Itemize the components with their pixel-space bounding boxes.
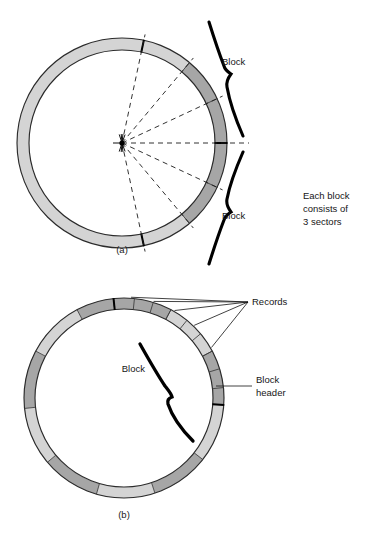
side-note-line-1: Each block (303, 190, 350, 201)
side-note-line-2: consists of (303, 203, 348, 214)
panel-b-records-label: Records (252, 296, 288, 307)
panel-b-block-header-label-line-1: Block (256, 374, 279, 385)
panel-a-hub-dot (119, 140, 124, 145)
panel-a-caption: (a) (116, 244, 128, 255)
side-note-line-3: 3 sectors (303, 216, 342, 227)
panel-b-caption: (b) (118, 509, 130, 520)
panel-a-block-label-top: Block (222, 56, 245, 67)
figure-root: Block Block (a) Each block consists of 3… (0, 0, 382, 539)
panel-a-block-label-bottom: Block (222, 210, 245, 221)
panel-b-header-tick-1 (212, 404, 224, 405)
panel-b-header-tick-2 (113, 298, 114, 310)
panel-b-block-label: Block (122, 363, 145, 374)
disk-block-sector-figure: Block Block (a) Each block consists of 3… (0, 0, 382, 539)
panel-b-block-header-label-line-2: header (256, 387, 286, 398)
